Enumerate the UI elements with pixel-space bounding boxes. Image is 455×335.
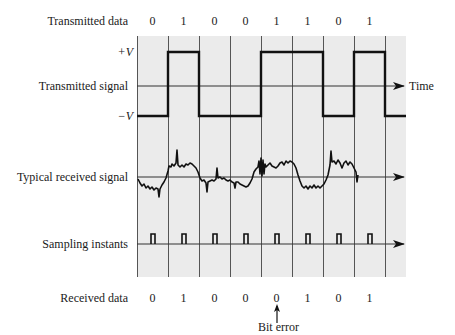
transmitted-bit: 0 bbox=[137, 14, 168, 28]
transmitted-bit: 0 bbox=[230, 14, 261, 28]
received-bit: 1 bbox=[354, 291, 385, 305]
received-bit-error: 0 bbox=[261, 291, 292, 305]
transmitted-bit: 1 bbox=[261, 14, 292, 28]
received-bit: 1 bbox=[292, 291, 323, 305]
received-bit: 0 bbox=[199, 291, 230, 305]
bit-error-label: Bit error bbox=[258, 320, 299, 334]
transmitted-bit: 1 bbox=[292, 14, 323, 28]
transmitted-bit: 0 bbox=[323, 14, 354, 28]
received-bit: 0 bbox=[323, 291, 354, 305]
time-axis-label: Time bbox=[409, 79, 434, 93]
transmitted-bit: 1 bbox=[168, 14, 199, 28]
received-bit: 0 bbox=[230, 291, 261, 305]
transmitted-bit: 1 bbox=[354, 14, 385, 28]
received-bit: 0 bbox=[137, 291, 168, 305]
timing-diagram bbox=[0, 0, 455, 335]
received-bit: 1 bbox=[168, 291, 199, 305]
transmitted-bit: 0 bbox=[199, 14, 230, 28]
